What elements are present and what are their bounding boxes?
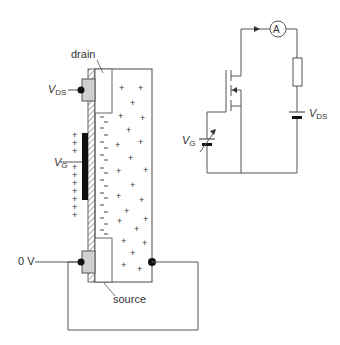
- svg-text:+: +: [72, 146, 77, 156]
- svg-text:+: +: [139, 195, 144, 205]
- svg-text:+: +: [130, 248, 135, 258]
- circuit-diagram: [199, 21, 305, 173]
- svg-text:+: +: [140, 113, 145, 123]
- svg-text:+: +: [118, 111, 123, 121]
- gate-positive-charges: + + + + + + + + + +: [72, 130, 77, 220]
- source-terminal-dot: [78, 259, 85, 266]
- svg-text:+: +: [121, 236, 126, 246]
- svg-text:+: +: [117, 216, 122, 226]
- svg-text:+: +: [72, 210, 77, 220]
- battery-vg-plate-short: [202, 143, 212, 146]
- circuit-vds-label: VDS: [309, 107, 327, 121]
- svg-text:+: +: [119, 83, 124, 93]
- svg-text:+: +: [126, 125, 131, 135]
- mosfet-diagram: drain source VDS VG 0 V + + + + + + + + …: [0, 0, 340, 345]
- current-arrow-icon: [254, 26, 260, 32]
- svg-text:+: +: [115, 140, 120, 150]
- battery-vds-plate-short: [292, 116, 302, 119]
- svg-text:+: +: [128, 153, 133, 163]
- svg-text:+: +: [138, 137, 143, 147]
- svg-text:+: +: [142, 238, 147, 248]
- vds-label: VDS: [48, 83, 66, 97]
- zero-volt-label: 0 V: [18, 255, 35, 267]
- svg-text:+: +: [130, 98, 135, 108]
- svg-text:+: +: [116, 166, 121, 176]
- svg-text:+: +: [130, 180, 135, 190]
- vg-label: VG: [54, 156, 68, 170]
- source-region: [95, 238, 112, 282]
- drain-region: [95, 69, 112, 113]
- mosfet-arrow-icon: [232, 87, 237, 93]
- svg-text:+: +: [143, 165, 148, 175]
- svg-text:+: +: [134, 224, 139, 234]
- gate-electrode: [82, 133, 88, 200]
- svg-text:+: +: [143, 214, 148, 224]
- resistor: [293, 58, 302, 86]
- svg-text:+: +: [124, 206, 129, 216]
- source-label: source: [113, 293, 146, 305]
- drain-terminal-dot: [78, 87, 85, 94]
- svg-text:+: +: [121, 260, 126, 270]
- svg-text:+: +: [138, 83, 143, 93]
- drain-label: drain: [71, 48, 95, 60]
- svg-text:+: +: [116, 191, 121, 201]
- circuit-vg-label: VG: [182, 134, 196, 148]
- svg-text:+: +: [137, 264, 142, 274]
- cross-section: drain source VDS VG 0 V + + + + + + + + …: [18, 48, 198, 330]
- ammeter-label: A: [273, 24, 280, 35]
